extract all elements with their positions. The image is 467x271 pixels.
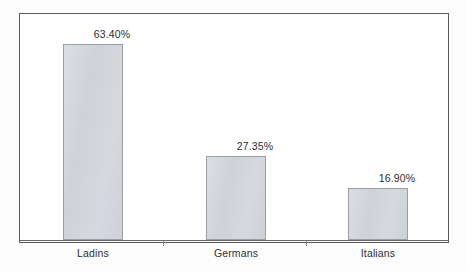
plot-area: 63.40% 27.35% 16.90% Ladins Germans Ital… xyxy=(20,14,448,242)
bar-value-label-italians: 16.90% xyxy=(342,172,452,184)
bar-sheen xyxy=(64,45,122,239)
bar-germans[interactable] xyxy=(206,156,266,240)
bar-italians[interactable] xyxy=(348,188,408,240)
category-label-italians: Italians xyxy=(323,247,433,259)
bar-value-label-germans: 27.35% xyxy=(200,140,310,152)
category-axis-line xyxy=(20,240,448,241)
bar-value-label-ladins: 63.40% xyxy=(57,28,167,40)
bar-ladins[interactable] xyxy=(63,44,123,240)
chart-frame: 63.40% 27.35% 16.90% Ladins Germans Ital… xyxy=(19,13,449,243)
bar-sheen xyxy=(207,157,265,239)
category-label-germans: Germans xyxy=(181,247,291,259)
category-label-ladins: Ladins xyxy=(38,247,148,259)
axis-tick-1 xyxy=(163,241,164,246)
chart-page: 63.40% 27.35% 16.90% Ladins Germans Ital… xyxy=(0,0,467,271)
bar-sheen xyxy=(349,189,407,239)
axis-tick-2 xyxy=(306,241,307,246)
